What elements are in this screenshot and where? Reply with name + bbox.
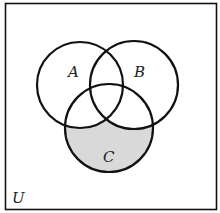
set-c-label: C	[103, 148, 115, 166]
set-a-label: A	[66, 63, 79, 81]
set-b-label: B	[133, 63, 145, 81]
universe-label: U	[12, 189, 26, 207]
venn-diagram: A B C U	[0, 0, 220, 213]
